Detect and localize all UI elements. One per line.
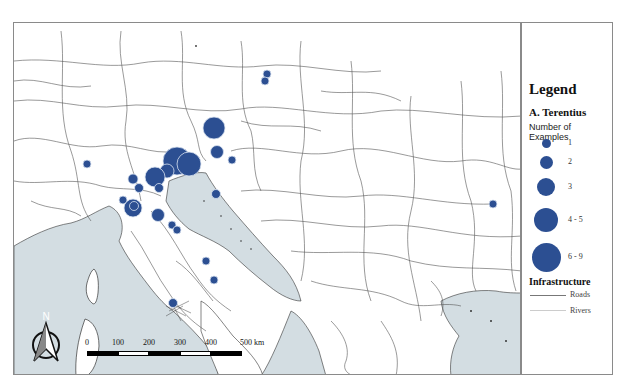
scale-segment — [211, 351, 242, 356]
scale-segment — [149, 351, 180, 356]
scale-label: 200 — [143, 338, 155, 347]
site-marker[interactable] — [83, 160, 91, 168]
legend-rivers-label: Rivers — [570, 306, 591, 315]
site-marker[interactable] — [202, 257, 210, 265]
site-marker[interactable] — [173, 226, 181, 234]
site-marker[interactable] — [489, 200, 497, 208]
site-marker[interactable] — [212, 190, 221, 199]
scale-label: 0 — [85, 338, 89, 347]
legend-title: Legend — [529, 81, 577, 98]
legend-symbol — [532, 243, 561, 272]
legend-panel: Legend A. Terentius Number of Examples 1… — [521, 22, 613, 375]
legend-symbol — [534, 208, 558, 232]
site-marker[interactable] — [177, 152, 201, 176]
scale-label: 300 — [174, 338, 186, 347]
legend-infrastructure-title: Infrastructure — [529, 276, 590, 287]
legend-roads-label: Roads — [570, 290, 590, 299]
site-marker[interactable] — [210, 276, 218, 284]
legend-symbol — [537, 178, 555, 196]
site-marker[interactable] — [155, 184, 164, 193]
compass-label: N — [42, 311, 49, 322]
roads-line-symbol — [530, 295, 566, 296]
rivers-line-symbol — [530, 310, 566, 311]
legend-class-label: 6 - 9 — [568, 252, 583, 261]
legend-class-label: 4 - 5 — [568, 215, 583, 224]
legend-class-label: 2 — [568, 157, 572, 166]
scale-segment — [87, 351, 118, 356]
map-canvas[interactable]: 0100200300400500 km N — [13, 22, 521, 375]
site-marker[interactable] — [135, 184, 144, 193]
site-marker[interactable] — [130, 202, 139, 211]
legend-symbol — [540, 156, 553, 169]
sites-layer — [83, 70, 497, 308]
site-marker[interactable] — [261, 77, 269, 85]
scale-segment — [118, 351, 149, 356]
scale-segment — [180, 351, 211, 356]
site-marker[interactable] — [211, 146, 224, 159]
scale-label: 100 — [112, 338, 124, 347]
scale-label: 400 — [205, 338, 217, 347]
site-marker[interactable] — [203, 117, 225, 139]
legend-symbol — [542, 139, 551, 148]
scale-label: 500 km — [240, 338, 264, 347]
site-marker[interactable] — [152, 209, 165, 222]
site-marker[interactable] — [145, 167, 165, 187]
legend-class-label: 1 — [568, 138, 572, 147]
north-arrow-icon: N — [29, 311, 63, 363]
site-marker[interactable] — [128, 174, 138, 184]
site-marker[interactable] — [169, 299, 178, 308]
map-svg — [14, 23, 521, 375]
site-marker[interactable] — [228, 156, 236, 164]
legend-layer-name: A. Terentius — [529, 106, 586, 118]
legend-class-label: 3 — [568, 182, 572, 191]
